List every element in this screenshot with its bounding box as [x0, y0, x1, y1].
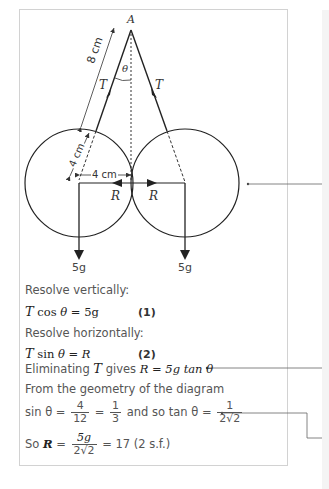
- result-line: So R = 5g2√2 = 17 (2 s.f.): [25, 432, 170, 457]
- weight-arrow-left: [74, 250, 84, 260]
- point-a-label: A: [127, 13, 135, 26]
- equation-2-tag: (2): [138, 348, 156, 361]
- sin-theta-line: sin θ = 412 = 13 and so tan θ = 12√2: [25, 400, 244, 425]
- geometry-text: From the geometry of the diagram: [25, 382, 224, 396]
- reaction-arrow-left: [112, 179, 122, 187]
- reaction-label-right: R: [149, 189, 158, 203]
- weight-arrow-right: [180, 250, 190, 260]
- tension-label-left: T: [99, 78, 107, 92]
- reaction-label-left: R: [111, 189, 120, 203]
- eliminating-line: Eliminating T gives R = 5g tan θ: [25, 361, 213, 376]
- theta-label: θ: [122, 63, 128, 74]
- tension-label-right: T: [155, 78, 163, 92]
- equation-1: T cos θ = 5g: [25, 304, 99, 319]
- weight-label-right: 5g: [178, 261, 192, 274]
- reaction-arrow-right: [147, 179, 157, 187]
- equation-1-tag: (1): [138, 306, 156, 319]
- weight-label-left: 5g: [72, 261, 86, 274]
- half-separation-label: 4 cm: [91, 169, 118, 180]
- resolve-vertically-text: Resolve vertically:: [25, 283, 129, 297]
- resolve-horizontally-text: Resolve horizontally:: [25, 326, 144, 340]
- equation-2: T sin θ = R: [25, 346, 91, 361]
